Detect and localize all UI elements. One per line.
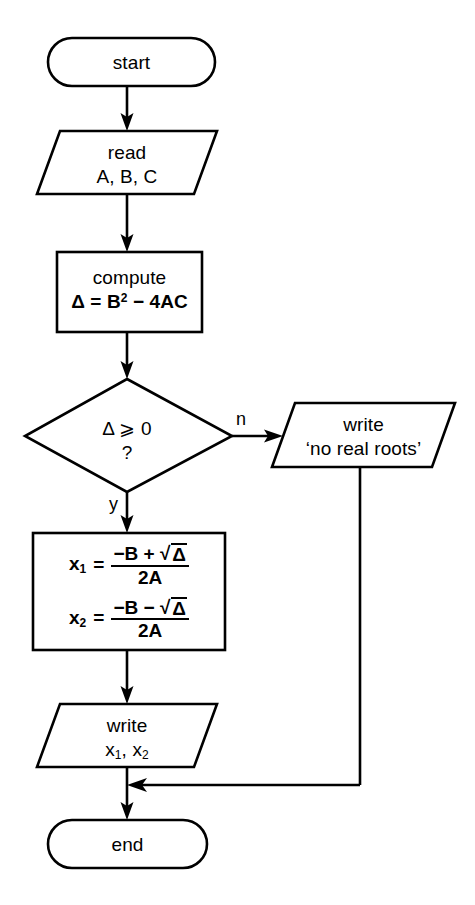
root-formula-x2: x2 = −B − √Δ 2A (69, 596, 189, 642)
start-label: start (48, 52, 215, 73)
sqrt-icon: √ (160, 598, 170, 618)
writeroots-x1-subscript: 1 (115, 748, 122, 762)
x2-var: x (69, 607, 80, 628)
writeroots-x2: x (132, 739, 142, 760)
decision-label-line1: Δ ⩾ 0 (62, 417, 192, 441)
noroots-label: write ‘no real roots’ (272, 413, 455, 460)
read-label-line1: read (37, 141, 217, 165)
writeroots-label-line2: x1, x2 (37, 738, 217, 763)
x2-lhs: x2 (69, 607, 86, 630)
x1-numerator-sign: −B + (113, 543, 154, 564)
x2-denominator: 2A (138, 620, 162, 641)
root-formula-x1: x1 = −B + √Δ 2A (69, 542, 189, 588)
writeroots-x1: x (105, 739, 115, 760)
compute-label: compute Δ = B2 − 4AC (57, 266, 202, 313)
writeroots-label-line1: write (37, 714, 217, 738)
writeroots-x2-subscript: 2 (142, 748, 149, 762)
x1-fraction: −B + √Δ 2A (111, 542, 189, 588)
x1-subscript: 1 (80, 562, 87, 576)
noroots-label-line1: write (272, 413, 455, 437)
noroots-label-line2: ‘no real roots’ (272, 437, 455, 461)
x2-equals: = (93, 607, 104, 629)
decision-label-line2: ? (62, 441, 192, 465)
writeroots-separator: , (122, 739, 133, 760)
writeroots-label: write x1, x2 (37, 714, 217, 762)
x1-lhs: x1 (69, 553, 86, 576)
read-label: read A, B, C (37, 141, 217, 188)
compute-delta-expr: Δ = B (71, 291, 121, 312)
x2-radicand: Δ (171, 597, 187, 619)
decision-label: Δ ⩾ 0 ? (62, 417, 192, 464)
sqrt-icon: √ (160, 544, 170, 564)
compute-exponent: 2 (121, 291, 128, 305)
x2-fraction: −B − √Δ 2A (111, 596, 189, 642)
roots-formula-group: x1 = −B + √Δ 2A x2 = −B − √Δ 2A (33, 533, 225, 650)
compute-expr-rest: − 4AC (128, 291, 188, 312)
end-label: end (48, 834, 207, 855)
x2-numerator: −B − √Δ (111, 596, 189, 621)
x1-var: x (69, 553, 80, 574)
branch-label-yes: y (109, 495, 118, 513)
compute-label-line1: compute (57, 266, 202, 290)
x1-numerator: −B + √Δ (111, 542, 189, 567)
x2-numerator-sign: −B − (113, 597, 154, 618)
branch-label-no: n (236, 410, 246, 428)
read-label-line2: A, B, C (37, 165, 217, 189)
x1-equals: = (93, 554, 104, 576)
x1-radicand: Δ (171, 543, 187, 565)
compute-label-line2: Δ = B2 − 4AC (57, 290, 202, 314)
flowchart-canvas: start read A, B, C compute Δ = B2 − 4AC … (0, 0, 475, 905)
x2-subscript: 2 (80, 616, 87, 630)
x1-denominator: 2A (138, 567, 162, 588)
